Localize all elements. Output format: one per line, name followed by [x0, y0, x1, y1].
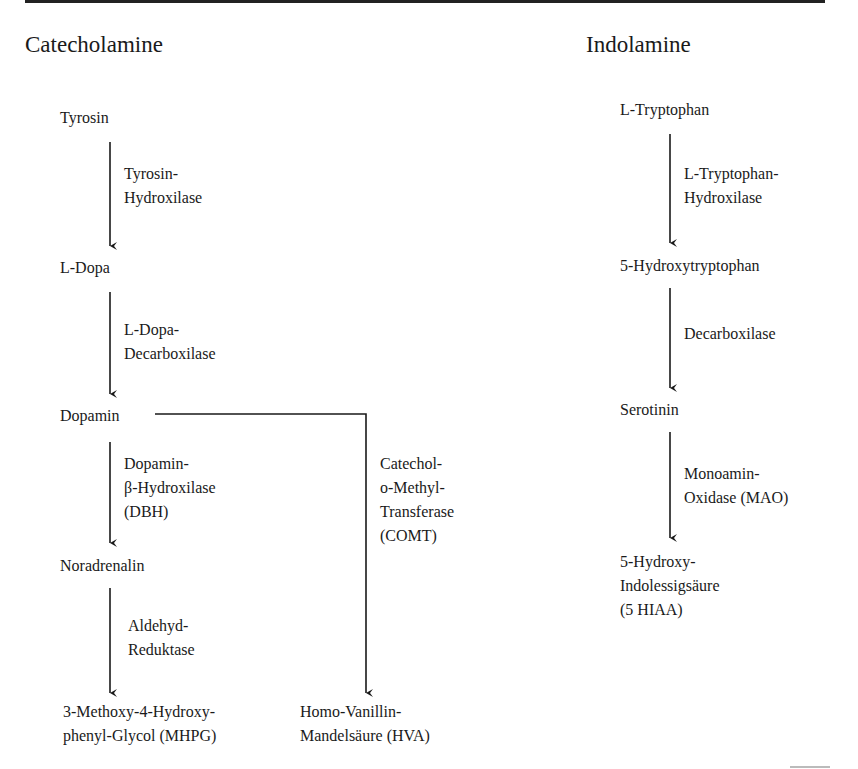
pathway-arrows [0, 0, 858, 769]
